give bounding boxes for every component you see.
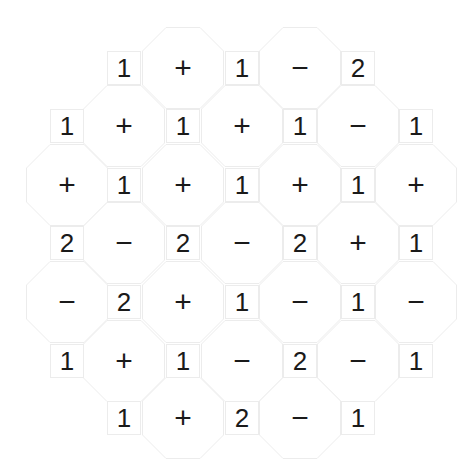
cell-number: − [233,346,251,376]
cell-operator: 1 [117,405,131,431]
cell-operator: 1 [293,113,307,139]
cell-operator: 1 [176,113,190,139]
operator-cell[interactable]: 1 [341,285,375,319]
cell-number: − [291,403,309,433]
operator-cell[interactable]: 2 [283,344,317,378]
cell-number: + [291,170,309,200]
cell-number: + [174,287,192,317]
cell-number: − [58,287,76,317]
cell-number: + [174,403,192,433]
cell-operator: 1 [60,113,74,139]
cell-number: + [174,53,192,83]
cell-number: − [291,287,309,317]
operator-cell[interactable]: 2 [50,226,84,260]
operator-cell[interactable]: 2 [166,226,200,260]
operator-cell[interactable]: 2 [341,51,375,85]
cell-operator: 2 [176,230,190,256]
operator-cell[interactable]: 1 [50,109,84,143]
cell-operator: 1 [235,172,249,198]
operator-cell[interactable]: 1 [341,401,375,435]
operator-cell[interactable]: 1 [225,168,259,202]
cell-operator: 1 [60,348,74,374]
cell-operator: 1 [409,348,423,374]
operator-cell[interactable]: 2 [225,401,259,435]
cell-number: − [349,346,367,376]
operator-cell[interactable]: 1 [399,344,433,378]
cell-operator: 1 [351,405,365,431]
operator-cell[interactable]: 1 [225,285,259,319]
cell-operator: 1 [235,289,249,315]
cell-number: − [233,228,251,258]
cell-operator: 2 [351,55,365,81]
cell-number: − [115,228,133,258]
cell-number: + [407,170,425,200]
operator-cell[interactable]: 1 [107,168,141,202]
operator-cell[interactable]: 1 [225,51,259,85]
cell-number: + [233,111,251,141]
cell-operator: 1 [117,55,131,81]
cell-operator: 2 [60,230,74,256]
operator-cell[interactable]: 1 [283,109,317,143]
operator-cell[interactable]: 2 [107,285,141,319]
cell-operator: 1 [117,172,131,198]
cell-number: − [349,111,367,141]
operator-cell[interactable]: 1 [166,344,200,378]
cell-operator: 1 [351,172,365,198]
cell-number: + [115,346,133,376]
cell-number: + [349,228,367,258]
number-cell[interactable]: − [259,377,341,459]
operator-cell[interactable]: 1 [341,168,375,202]
operator-cell[interactable]: 2 [283,226,317,260]
cell-operator: 1 [176,348,190,374]
operator-cell[interactable]: 1 [107,401,141,435]
cell-number: − [291,53,309,83]
cell-number: + [115,111,133,141]
cell-operator: 1 [409,230,423,256]
cell-operator: 2 [235,405,249,431]
cell-number: + [58,170,76,200]
cell-number: − [407,287,425,317]
cell-number: + [174,170,192,200]
operator-cell[interactable]: 1 [166,109,200,143]
cell-operator: 2 [117,289,131,315]
number-cell[interactable]: + [142,377,224,459]
operator-cell[interactable]: 1 [107,51,141,85]
operator-cell[interactable]: 1 [399,226,433,260]
cell-operator: 2 [293,230,307,256]
operator-cell[interactable]: 1 [399,109,433,143]
cell-operator: 1 [235,55,249,81]
cell-operator: 1 [351,289,365,315]
cell-operator: 1 [409,113,423,139]
cell-operator: 2 [293,348,307,374]
operator-cell[interactable]: 1 [50,344,84,378]
